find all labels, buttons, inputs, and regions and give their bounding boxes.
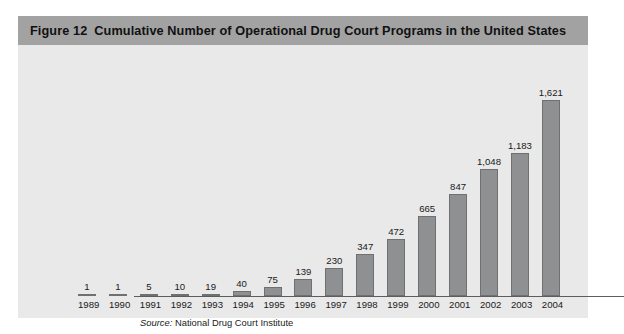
bar-item: 1 [109,55,127,296]
figure-panel: Figure 12Cumulative Number of Operationa… [18,16,588,318]
bar-value-label: 1 [84,282,89,292]
bar-rect [78,294,96,296]
bar-value-label: 5 [146,282,151,292]
bar-value-label: 1,621 [539,88,563,98]
bar-value-label: 75 [267,275,278,285]
bar-item: 139 [294,55,312,296]
bar-item: 847 [449,55,467,296]
x-axis-tick-label: 2002 [480,299,498,310]
bar-rect [480,169,498,296]
chart-plot-area: 115101940751392303474726658471,0481,1831… [18,45,588,318]
x-axis-tick-labels: 1989199019911992199319941995199619971998… [78,299,560,310]
source-label: Source: [140,317,172,328]
bar-value-label: 10 [174,282,185,292]
bar-value-label: 347 [357,242,373,252]
bar-item: 472 [387,55,405,296]
bar-chart: 115101940751392303474726658471,0481,1831… [78,55,560,297]
x-axis-tick-label: 1993 [202,299,220,310]
x-axis-tick-label: 2004 [542,299,560,310]
bar-item: 10 [171,55,189,296]
bar-item: 230 [325,55,343,296]
figure-number: Figure 12 [30,24,87,38]
x-axis-tick-label: 1994 [233,299,251,310]
bar-item: 1 [78,55,96,296]
bar-rect [511,153,529,296]
bar-item: 1,048 [480,55,498,296]
x-axis-line [134,296,624,297]
x-axis-tick-label: 2001 [449,299,467,310]
bar-rect [418,216,436,296]
bar-rect [387,239,405,296]
bar-item: 19 [202,55,220,296]
x-axis-tick-label: 1992 [171,299,189,310]
bar-value-label: 665 [419,204,435,214]
bar-item: 1,183 [511,55,529,296]
bar-value-label: 472 [388,227,404,237]
bar-rect [264,287,282,296]
bar-rect [449,194,467,296]
bar-item: 665 [418,55,436,296]
x-axis-tick-label: 1997 [325,299,343,310]
figure-title-band: Figure 12Cumulative Number of Operationa… [18,16,588,45]
x-axis-tick-label: 1996 [294,299,312,310]
bar-rect [109,294,127,296]
bar-value-label: 1,183 [508,141,532,151]
source-note: Source: National Drug Court Institute [140,317,293,328]
bar-series: 115101940751392303474726658471,0481,1831… [78,55,560,296]
bar-value-label: 19 [205,282,216,292]
bar-value-label: 1 [115,282,120,292]
bar-rect [356,254,374,296]
bar-item: 75 [264,55,282,296]
bar-item: 5 [140,55,158,296]
x-axis-tick-label: 2000 [418,299,436,310]
bar-item: 347 [356,55,374,296]
x-axis-tick-label: 1998 [356,299,374,310]
bar-value-label: 1,048 [477,157,501,167]
bar-rect [542,100,560,296]
x-axis-tick-label: 1989 [78,299,96,310]
x-axis-tick-label: 1990 [109,299,127,310]
bar-value-label: 40 [236,279,247,289]
bar-value-label: 230 [326,256,342,266]
bar-value-label: 847 [450,182,466,192]
x-axis-tick-label: 1995 [264,299,282,310]
bar-value-label: 139 [295,267,311,277]
bar-item: 1,621 [542,55,560,296]
figure-title-text: Cumulative Number of Operational Drug Co… [94,24,566,38]
bar-rect [325,268,343,296]
bar-item: 40 [233,55,251,296]
bar-rect [294,279,312,296]
x-axis-tick-label: 2003 [511,299,529,310]
x-axis-tick-label: 1991 [140,299,158,310]
page-title: Figure 12Cumulative Number of Operationa… [30,24,566,38]
x-axis-tick-label: 1999 [387,299,405,310]
source-value: National Drug Court Institute [175,317,293,328]
